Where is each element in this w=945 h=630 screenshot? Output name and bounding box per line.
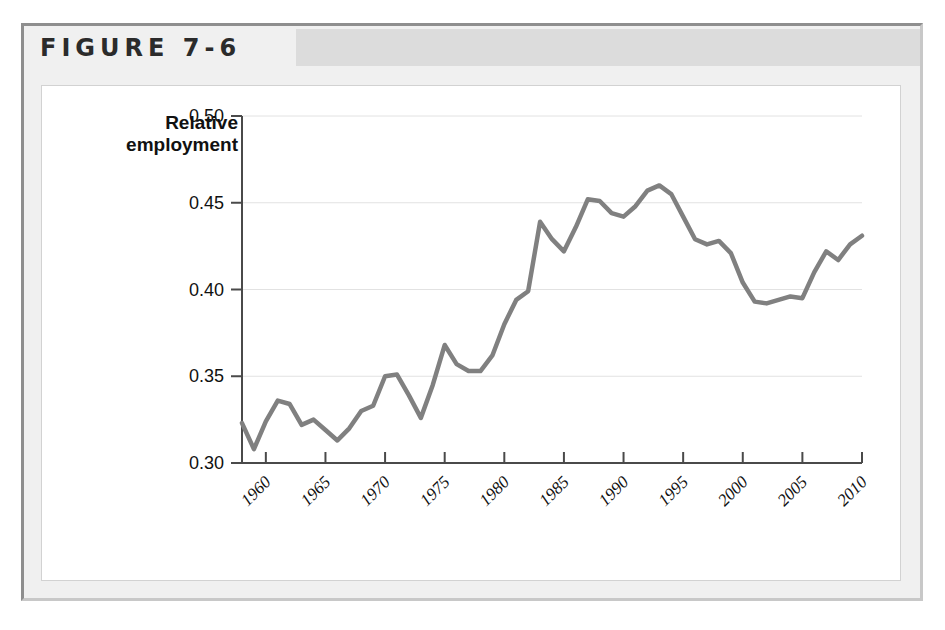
- gridlines-group: [242, 116, 862, 376]
- figure-label: FIGURE 7-6: [40, 34, 241, 62]
- header-tint-block: [296, 29, 920, 66]
- x-tickmarks-group: [266, 452, 862, 463]
- y-tick-label: 0.40: [189, 280, 224, 300]
- x-tick-labels-group: 1960196519701975198019851990199520002005…: [237, 472, 871, 510]
- data-series-line: [242, 185, 862, 449]
- figure-header: FIGURE 7-6: [24, 26, 920, 66]
- y-tick-label: 0.50: [189, 106, 224, 126]
- x-tick-label: 2000: [714, 472, 752, 510]
- x-tick-label: 1985: [535, 472, 572, 509]
- y-tick-labels-group: 0.500.450.400.350.30: [189, 106, 224, 473]
- x-tick-label: 1975: [416, 472, 453, 509]
- x-tick-label: 1970: [356, 472, 394, 510]
- x-tick-label: 2005: [774, 472, 811, 509]
- y-tick-label: 0.45: [189, 193, 224, 213]
- x-tick-label: 2010: [833, 472, 871, 510]
- line-chart-plot: 0.500.450.400.350.30 1960196519701975198…: [42, 86, 902, 582]
- y-tickmarks-group: [231, 116, 242, 463]
- x-tick-label: 1990: [595, 472, 633, 510]
- x-tick-label: 1960: [237, 472, 275, 510]
- x-tick-label: 1995: [655, 472, 692, 509]
- chart-area: Relative employment 0.500.450.400.350.30…: [42, 86, 902, 582]
- x-tick-label: 1980: [476, 472, 514, 510]
- x-tick-label: 1965: [297, 472, 334, 509]
- y-tick-label: 0.35: [189, 366, 224, 386]
- chart-card: Relative employment 0.500.450.400.350.30…: [41, 85, 901, 581]
- y-tick-label: 0.30: [189, 453, 224, 473]
- figure-panel: FIGURE 7-6 Relative employment 0.500.450…: [21, 23, 923, 601]
